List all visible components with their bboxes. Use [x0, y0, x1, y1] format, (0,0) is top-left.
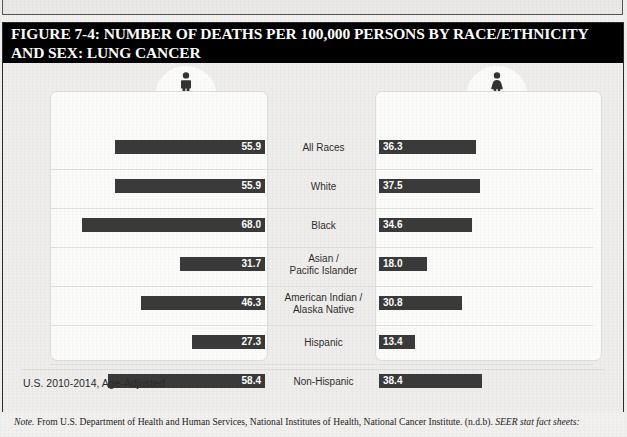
male-bar: 55.9 — [115, 140, 265, 154]
chart-row: 27.3Hispanic13.4 — [3, 326, 623, 365]
male-bar: 68.0 — [82, 218, 265, 232]
female-bar: 36.3 — [379, 140, 476, 154]
male-bar-value: 55.9 — [242, 181, 261, 191]
female-bar: 13.4 — [379, 335, 415, 349]
category-label: Black — [271, 209, 376, 243]
female-bar: 37.5 — [379, 179, 480, 193]
category-label: Asian / Pacific Islander — [271, 248, 376, 282]
figure-title-bar: FIGURE 7-4: NUMBER OF DEATHS PER 100,000… — [3, 23, 623, 63]
male-bar-value: 27.3 — [242, 337, 261, 347]
chart-row: 46.3American Indian / Alaska Native30.8 — [3, 287, 623, 326]
male-bar-value: 58.4 — [242, 376, 261, 386]
male-bar: 27.3 — [192, 335, 265, 349]
chart-row: 55.9All Races36.3 — [3, 131, 623, 170]
figure-title: FIGURE 7-4: NUMBER OF DEATHS PER 100,000… — [11, 25, 615, 62]
male-bar-value: 55.9 — [242, 142, 261, 152]
female-bar: 34.6 — [379, 218, 472, 232]
female-bar-value: 13.4 — [383, 337, 402, 347]
female-bar-value: 18.0 — [383, 259, 402, 269]
male-bar: 31.7 — [180, 257, 265, 271]
cut-off-box-above — [2, 0, 623, 15]
chart-row: 31.7Asian / Pacific Islander18.0 — [3, 248, 623, 287]
chart-area: MALE FEMALE 55.9All Races36.355.9White37… — [3, 63, 623, 412]
female-bar-value: 38.4 — [383, 376, 402, 386]
category-label: Hispanic — [271, 326, 376, 360]
chart-row: 68.0Black34.6 — [3, 209, 623, 248]
figure-footnote: U.S. 2010-2014, Age-Adjusted — [23, 377, 165, 389]
female-bar-value: 36.3 — [383, 142, 402, 152]
footnote-divider — [21, 369, 605, 370]
female-bar: 18.0 — [379, 257, 427, 271]
female-bar-value: 34.6 — [383, 220, 402, 230]
note-italic-title: SEER stat fact sheets: — [495, 416, 579, 427]
female-bar: 30.8 — [379, 296, 462, 310]
male-bar-value: 46.3 — [242, 298, 261, 308]
female-bar-value: 37.5 — [383, 181, 402, 191]
chart-row: 55.9White37.5 — [3, 170, 623, 209]
category-label: All Races — [271, 131, 376, 165]
male-bar: 55.9 — [115, 179, 265, 193]
category-label: Non-Hispanic — [271, 365, 376, 399]
figure-container: FIGURE 7-4: NUMBER OF DEATHS PER 100,000… — [2, 22, 624, 412]
category-label: American Indian / Alaska Native — [271, 287, 376, 321]
note-body: From U.S. Department of Health and Human… — [35, 416, 496, 427]
category-label: White — [271, 170, 376, 204]
male-bar-value: 31.7 — [242, 259, 261, 269]
note-prefix: Note. — [14, 416, 35, 427]
female-bar: 38.4 — [379, 374, 482, 388]
source-note: Note. From U.S. Department of Health and… — [14, 416, 614, 427]
male-bar-value: 68.0 — [242, 220, 261, 230]
female-bar-value: 30.8 — [383, 298, 402, 308]
male-bar: 46.3 — [141, 296, 265, 310]
